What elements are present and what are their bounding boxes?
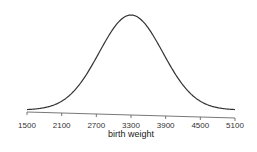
- x-tick-label: 2700: [87, 121, 105, 130]
- x-tick-label: 5100: [226, 121, 244, 130]
- x-tick-label: 3900: [157, 121, 175, 130]
- density-curve: [27, 15, 235, 110]
- density-curve-line: [27, 15, 235, 110]
- x-tick-label: 2100: [53, 121, 71, 130]
- x-axis: 1500210027003300390045005100: [18, 112, 244, 130]
- x-tick-label: 1500: [18, 121, 36, 130]
- density-chart: 1500210027003300390045005100 birth weigh…: [0, 0, 257, 152]
- x-tick-label: 4500: [191, 121, 209, 130]
- x-axis-title: birth weight: [108, 129, 155, 139]
